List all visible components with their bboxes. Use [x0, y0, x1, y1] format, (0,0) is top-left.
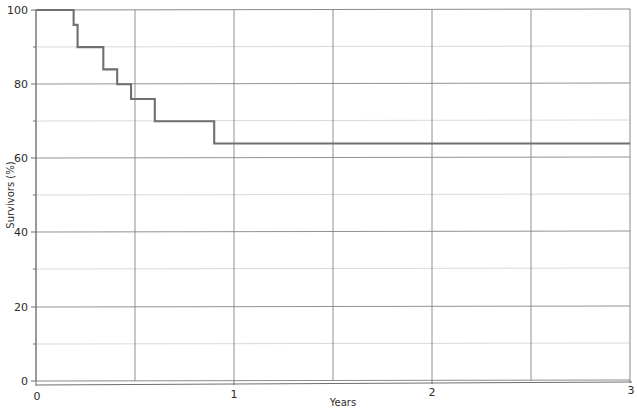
frame-top — [36, 9, 630, 10]
y-axis-title: Survivors (%) — [5, 161, 16, 228]
y-tick-label-0: 0 — [21, 375, 28, 388]
y-tick-label-20: 20 — [14, 301, 28, 314]
x-tick-label-2: 2 — [429, 386, 436, 399]
y-tick-label-100: 100 — [7, 4, 28, 17]
y-tick-label-60: 60 — [14, 152, 28, 165]
x-tick-label-0: 0 — [34, 390, 41, 403]
x-axis-title: Years — [329, 397, 356, 408]
x-tick-label-1: 1 — [231, 388, 238, 401]
survival-chart: 100 80 60 40 20 0 0 1 2 3 Survivors (%) … — [0, 0, 637, 409]
y-axis — [31, 10, 36, 381]
km-plot-svg: 100 80 60 40 20 0 0 1 2 3 Survivors (%) … — [0, 0, 637, 409]
y-tick-label-80: 80 — [14, 78, 28, 91]
x-axis-spine — [36, 382, 632, 385]
x-tick-label-3: 3 — [628, 384, 635, 397]
y-tick-label-40: 40 — [14, 226, 28, 239]
